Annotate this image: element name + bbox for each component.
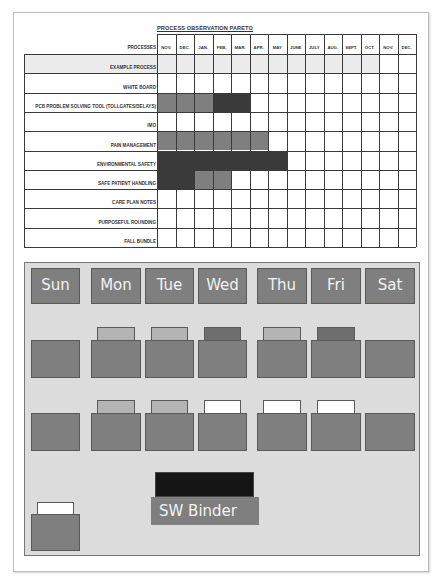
process-label: SAFE PATIENT HANDLING: [24, 181, 157, 186]
pareto-cell: [250, 54, 269, 73]
pareto-cell: [176, 131, 195, 150]
folder-tab: [204, 400, 241, 414]
pareto-cell: [194, 170, 213, 189]
month-header: NOV.: [379, 34, 398, 54]
month-header: DEC.: [176, 34, 195, 54]
row2-folder-mon: [91, 413, 141, 451]
day-label-fri: Fri: [311, 268, 361, 304]
row2-folder-sat: [365, 413, 415, 451]
grid-line: [24, 189, 416, 190]
grid-line: [231, 34, 232, 247]
pareto-cell: [176, 170, 195, 189]
grid-line: [361, 34, 362, 247]
folder-tab: [151, 400, 188, 414]
day-label-thu: Thu: [257, 268, 307, 304]
row2-folder-sun: [31, 413, 80, 451]
extra-folder: [31, 514, 80, 551]
row1-folder-tue: [145, 340, 194, 378]
pareto-title: PROCESS OBSERVATION PARETO: [157, 25, 253, 31]
month-header: DEC.: [398, 34, 417, 54]
binder-cover: [155, 472, 254, 497]
grid-line: [24, 151, 416, 152]
row2-folder-wed: [198, 413, 247, 451]
grid-line: [24, 228, 416, 229]
month-header: MAY: [268, 34, 287, 54]
pareto-cell: [194, 54, 213, 73]
pareto-cell: [213, 151, 232, 170]
grid-line: [287, 34, 288, 247]
month-header: APR.: [250, 34, 269, 54]
pareto-cell: [305, 54, 324, 73]
grid-line: [24, 112, 416, 113]
pareto-cell: [268, 151, 287, 170]
grid-line: [24, 93, 416, 94]
pareto-cell: [157, 131, 176, 150]
grid-line: [24, 54, 416, 55]
grid-line: [176, 34, 177, 247]
month-header: AUG.: [324, 34, 343, 54]
grid-line: [24, 247, 416, 248]
folder-tab: [151, 327, 188, 341]
pareto-cell: [176, 151, 195, 170]
grid-line: [24, 208, 416, 209]
process-label: IMO: [24, 123, 157, 128]
row2-folder-tue: [145, 413, 194, 451]
grid-line: [24, 170, 416, 171]
row2-folder-thu: [257, 413, 307, 451]
month-header: SEPT.: [342, 34, 361, 54]
pareto-cell: [213, 131, 232, 150]
folder-tab: [317, 327, 355, 341]
row1-folder-thu: [257, 340, 307, 378]
row1-folder-wed: [198, 340, 247, 378]
pareto-cell: [342, 54, 361, 73]
pareto-cell: [231, 93, 250, 112]
pareto-cell: [194, 131, 213, 150]
row1-folder-mon: [91, 340, 141, 378]
row1-folder-sat: [365, 340, 415, 378]
pareto-cell: [231, 54, 250, 73]
folder-tab: [97, 400, 135, 414]
pareto-cell: [268, 54, 287, 73]
month-header: JAN.: [194, 34, 213, 54]
pareto-cell: [157, 93, 176, 112]
day-label-mon: Mon: [91, 268, 141, 304]
grid-line: [305, 34, 306, 247]
pareto-cell: [194, 151, 213, 170]
pareto-cell: [194, 93, 213, 112]
process-label: EXAMPLE PROCESS: [24, 65, 157, 70]
pareto-cell: [157, 151, 176, 170]
day-label-sun: Sun: [31, 268, 80, 304]
process-label: WHITE BOARD: [24, 85, 157, 90]
month-header: NOV.: [157, 34, 176, 54]
folder-tab: [317, 400, 355, 414]
folder-tab: [263, 327, 301, 341]
month-header: JUNE: [287, 34, 306, 54]
pareto-cell: [213, 54, 232, 73]
pareto-cell: [157, 170, 176, 189]
pareto-cell: [250, 151, 269, 170]
grid-line: [324, 34, 325, 247]
grid-line: [24, 54, 25, 247]
pareto-table: PROCESSES NOV.DEC.JAN.FEB.MAR.APR.MAYJUN…: [24, 34, 416, 247]
grid-line: [398, 34, 399, 247]
grid-line: [268, 34, 269, 247]
pareto-cell: [231, 151, 250, 170]
grid-line: [342, 34, 343, 247]
day-label-wed: Wed: [198, 268, 247, 304]
row1-folder-fri: [311, 340, 361, 378]
pareto-cell: [287, 54, 306, 73]
pareto-cell: [250, 131, 269, 150]
grid-line: [194, 34, 195, 247]
sw-binder-label: SW Binder: [151, 497, 259, 525]
grid-line: [379, 34, 380, 247]
process-label: CARE PLAN NOTES: [24, 200, 157, 205]
grid-line: [250, 34, 251, 247]
pareto-cell: [176, 93, 195, 112]
processes-header: PROCESSES: [24, 34, 157, 54]
process-label: PCB PROBLEM SOLVING TOOL (TOLLGATES/DELA…: [24, 104, 157, 109]
grid-line: [24, 73, 416, 74]
grid-line: [157, 34, 158, 247]
process-label: ENVIRONMENTAL SAFETY: [24, 162, 157, 167]
row1-folder-sun: [31, 340, 80, 378]
example-row-shade: [24, 54, 157, 73]
